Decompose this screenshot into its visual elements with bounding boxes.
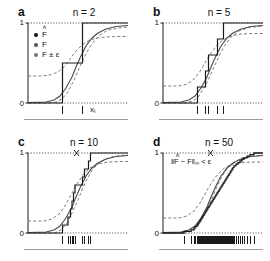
y-tick-1: 1 [14, 19, 24, 27]
rug-tick [247, 236, 248, 244]
rug-tick [234, 236, 235, 244]
rug-tick [236, 236, 237, 244]
rug-tick [75, 236, 76, 244]
rug-tick [217, 106, 218, 114]
panel-title: n = 10 [44, 138, 124, 148]
panel-d: d n = 50 1 0 ˄‖F − F‖∞ < ε [135, 130, 270, 260]
legend-label-true-cdf: F [42, 40, 47, 50]
rug-tick [223, 106, 224, 114]
y-tick-0: 0 [14, 100, 24, 108]
rug-tick [244, 236, 245, 244]
x-axis-label: xi [90, 106, 95, 114]
panel-letter: a [18, 6, 25, 18]
panel-rule [159, 119, 263, 120]
rug-tick [82, 106, 83, 114]
plot-area-c [28, 152, 128, 234]
rug-plot-d [163, 236, 263, 244]
rug-tick [250, 236, 251, 244]
plot-svg-c [28, 152, 128, 234]
cross-marker-icon [74, 150, 79, 156]
hat-accent-icon: ˄ [42, 25, 47, 30]
band-upper-curve [163, 162, 263, 218]
legend: ˄F F F ± ε [34, 30, 59, 60]
x-label-subscript: i [94, 108, 95, 114]
rug-tick [62, 106, 63, 114]
true-cdf-curve [163, 26, 263, 103]
figure-canvas: a n = 2 1 0 [0, 0, 270, 261]
y-tick-1: 1 [149, 149, 159, 157]
true-cdf-curve [28, 156, 128, 233]
panel-a: a n = 2 1 0 [0, 0, 135, 130]
rug-tick [240, 236, 241, 244]
panel-title: n = 2 [44, 8, 124, 18]
legend-swatch-confidence-band [34, 53, 38, 57]
legend-swatch-empirical-cdf [34, 33, 38, 37]
legend-item-confidence-band: F ± ε [34, 50, 59, 60]
panel-b: b n = 5 1 0 [135, 0, 270, 130]
true-cdf-curve [163, 156, 263, 233]
legend-label-empirical-cdf: ˄F [42, 30, 47, 40]
rug-tick [242, 236, 243, 244]
panel-letter: c [18, 136, 25, 148]
y-tick-0: 0 [14, 230, 24, 238]
plot-svg-b [163, 22, 263, 104]
rug-tick [191, 236, 192, 244]
rug-tick [197, 106, 198, 114]
panel-title: n = 50 [179, 138, 259, 148]
panel-rule [159, 249, 263, 250]
band-lower-curve [163, 26, 263, 103]
legend-item-true-cdf: F [34, 40, 59, 50]
legend-item-empirical-cdf: ˄F [34, 30, 59, 40]
rug-tick [90, 236, 91, 244]
rug-tick [205, 106, 206, 114]
rug-plot-a [28, 106, 128, 114]
annotation-tail: < ε [199, 157, 211, 166]
y-tick-0: 0 [149, 100, 159, 108]
hat-accent-icon: ˄ [175, 153, 180, 158]
plot-area-b [163, 22, 263, 104]
rug-plot-b [163, 106, 263, 114]
rug-tick [238, 236, 239, 244]
y-tick-0: 0 [149, 230, 159, 238]
band-upper-curve [163, 34, 263, 87]
rug-tick [68, 236, 69, 244]
panel-rule [24, 119, 128, 120]
rug-tick [82, 236, 83, 244]
panel-rule [24, 249, 128, 250]
rug-tick [62, 236, 63, 244]
legend-text: F [42, 30, 47, 39]
rug-tick [88, 236, 89, 244]
y-tick-1: 1 [14, 149, 24, 157]
panel-letter: d [153, 136, 160, 148]
rug-plot-c [28, 236, 128, 244]
rug-tick [184, 236, 185, 244]
rug-tick [73, 236, 74, 244]
rug-tick [208, 106, 209, 114]
band-lower-curve [163, 156, 263, 234]
annotation-sup-norm: ˄‖F − F‖∞ < ε [171, 158, 211, 166]
legend-swatch-true-cdf [34, 43, 38, 47]
band-lower-curve [28, 155, 128, 233]
panel-letter: b [153, 6, 160, 18]
legend-label-confidence-band: F ± ε [42, 50, 59, 60]
panel-title: n = 5 [179, 8, 259, 18]
rug-tick [195, 236, 196, 244]
rug-tick [84, 236, 85, 244]
rug-tick [70, 236, 71, 244]
rug-tick [254, 236, 255, 244]
y-tick-1: 1 [149, 19, 159, 27]
panel-c: c n = 10 1 0 [0, 130, 135, 260]
